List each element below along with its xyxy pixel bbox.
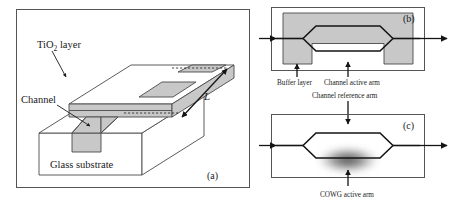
channel-active-arm-label: Channel active arm [324, 79, 380, 87]
glass-substrate-label: Glass substrate [50, 159, 114, 170]
channel-notch [72, 133, 101, 152]
tio2-label: TiO2 layer [37, 39, 81, 53]
panel-c-id: (c) [403, 120, 414, 132]
figure-root: TiO2 layer Channel Glass substrate L (a) [0, 0, 454, 204]
figure-svg: TiO2 layer Channel Glass substrate L (a) [0, 0, 454, 204]
panel-a: TiO2 layer Channel Glass substrate L (a) [17, 10, 250, 188]
buffer-layer-label: Buffer layer [277, 79, 312, 87]
channel-label: Channel [21, 94, 56, 105]
tio2-label-prefix: TiO [37, 39, 54, 50]
panel-b: Buffer layer Channel active arm (b) [259, 8, 447, 88]
panel-b-id: (b) [403, 13, 415, 25]
channel-reference-arm-label: Channel reference arm [312, 92, 378, 100]
panel-a-id: (a) [207, 170, 218, 182]
length-label: L [203, 90, 210, 102]
tio2-label-suffix: layer [57, 39, 81, 50]
panel-c: COWG active arm (c) [259, 115, 447, 200]
wg-c-upper-arm [303, 133, 393, 146]
cowg-active-arm-label: COWG active arm [320, 191, 374, 199]
cowg-active-region [316, 146, 380, 174]
channel-reference-arm-callout: Channel reference arm [312, 92, 378, 124]
tio2-leader-line [52, 51, 66, 77]
